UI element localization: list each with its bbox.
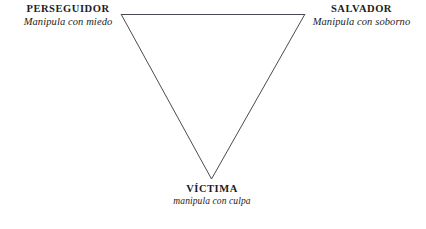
node-title-salvador: SALVADOR [304,3,419,15]
node-label-victima: VÍCTIMA manipula con culpa [152,183,272,206]
node-title-perseguidor: PERSEGUIDOR [14,3,122,15]
diagram-canvas: PERSEGUIDOR Manipula con miedo SALVADOR … [0,0,426,229]
triangle-edge-left [121,14,212,179]
node-subtitle-salvador: Manipula con soborno [304,16,419,28]
node-title-victima: VÍCTIMA [152,183,272,195]
node-subtitle-perseguidor: Manipula con miedo [14,16,122,28]
node-subtitle-victima: manipula con culpa [152,196,272,207]
triangle-edge-right [212,14,306,179]
node-label-perseguidor: PERSEGUIDOR Manipula con miedo [14,3,122,28]
node-label-salvador: SALVADOR Manipula con soborno [304,3,419,28]
